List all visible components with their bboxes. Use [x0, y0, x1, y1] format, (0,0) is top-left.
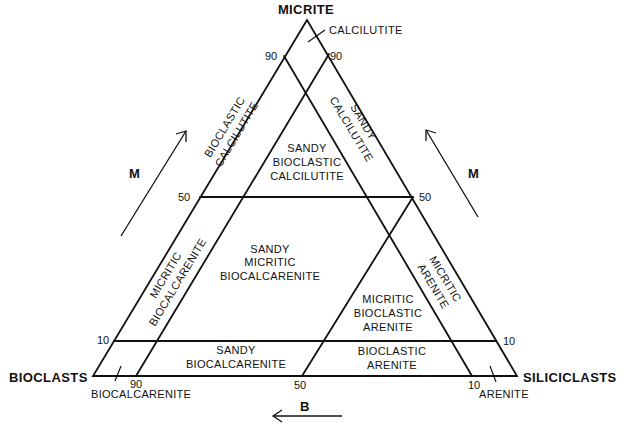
field-micritic-bioclastic-arenite-2: BIOCLASTIC [354, 307, 422, 319]
vertex-siliciclasts: SILICICLASTS [523, 370, 617, 385]
field-sandy-biocalcarenite-1: SANDY [216, 344, 256, 356]
field-sandy-micritic-biocalcarenite-3: BIOCALCARENITE [220, 270, 320, 282]
tick-right-50: 50 [419, 191, 431, 203]
ternary-diagram: MICRITE BIOCLASTS SILICICLASTS 90 90 50 … [0, 0, 622, 439]
field-sandy-micritic-biocalcarenite-1: SANDY [250, 243, 290, 255]
m-label-right: M [468, 166, 479, 181]
tick-right-10: 10 [503, 335, 515, 347]
field-arenite: ARENITE [479, 388, 529, 400]
biocalcarenite-pointer [115, 366, 121, 381]
field-sandy-micritic-biocalcarenite-2: MICRITIC [244, 256, 295, 268]
field-bioclastic-arenite-1: BIOCLASTIC [358, 345, 426, 357]
tick-right-90: 90 [330, 50, 342, 62]
m-label-left: M [129, 166, 140, 181]
arenite-pointer [490, 366, 496, 382]
field-sandy-bioclastic-calcilutite-2: BIOCLASTIC [273, 156, 341, 168]
calcilutite-pointer [308, 30, 325, 42]
tick-left-10: 10 [97, 334, 109, 346]
field-micritic-bioclastic-arenite-3: ARENITE [363, 321, 413, 333]
field-bioclastic-arenite-2: ARENITE [367, 359, 417, 371]
tick-bottom-50: 50 [294, 379, 306, 391]
vertex-micrite: MICRITE [278, 2, 334, 17]
field-sandy-bioclastic-calcilutite-3: CALCILUTITE [270, 170, 344, 182]
vertex-bioclasts: BIOCLASTS [9, 370, 88, 385]
field-biocalcarenite: BIOCALCARENITE [91, 388, 191, 400]
tick-left-90: 90 [265, 50, 277, 62]
b-label: B [300, 399, 309, 414]
field-calcilutite: CALCILUTITE [329, 24, 403, 36]
field-sandy-bioclastic-calcilutite-1: SANDY [287, 142, 327, 154]
m-arrow-left [121, 131, 186, 236]
tick-left-50: 50 [178, 191, 190, 203]
field-sandy-biocalcarenite-2: BIOCALCARENITE [186, 358, 286, 370]
field-micritic-bioclastic-arenite-1: MICRITIC [362, 293, 413, 305]
